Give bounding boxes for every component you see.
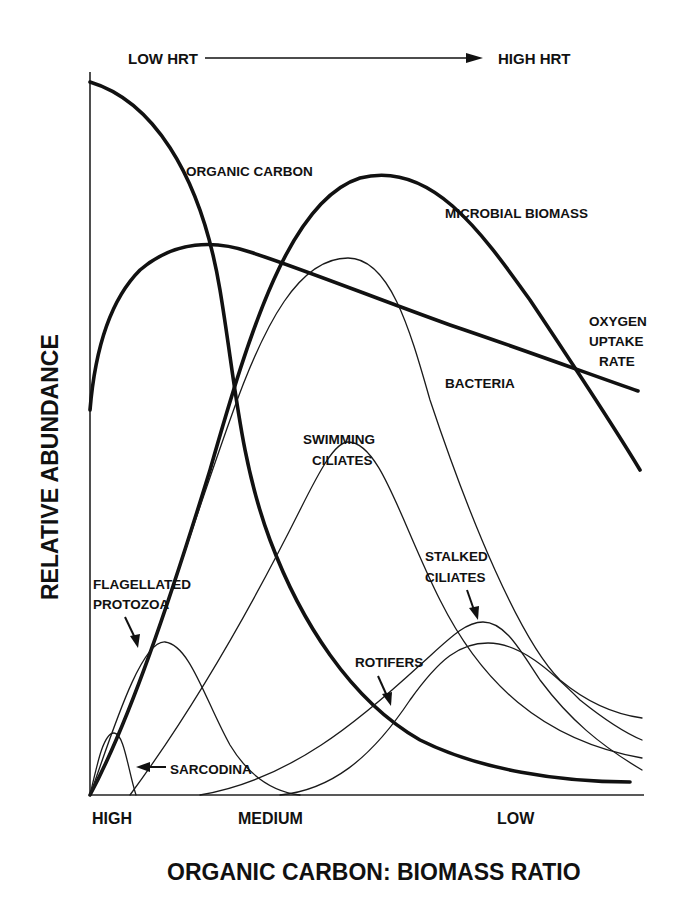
arrow-right-icon [466, 53, 483, 63]
flagellated-protozoa-label-line1: FLAGELLATED [93, 577, 191, 592]
rotifers-label: ROTIFERS [355, 655, 423, 670]
x-tick-medium: MEDIUM [238, 810, 303, 827]
organic-carbon-label: ORGANIC CARBON [186, 164, 313, 179]
stalked-ciliates-curve [200, 622, 642, 795]
stalked-ciliates-label-line1: STALKED [425, 549, 488, 564]
sarcodina-curve [90, 733, 136, 795]
microbial-biomass-label: MICROBIAL BIOMASS [445, 206, 588, 221]
oxygen-uptake-label-line3: RATE [599, 354, 635, 369]
oxygen-uptake-curve [90, 245, 638, 410]
flagellated-arrow-icon [125, 617, 140, 648]
succession-diagram: LOW HRT HIGH HRT RELATIVE ABUNDANCE HIGH… [0, 0, 679, 902]
stalked-ciliates-label-line2: CILIATES [425, 570, 486, 585]
oxygen-uptake-label-line2: UPTAKE [589, 334, 644, 349]
low-hrt-label: LOW HRT [128, 50, 198, 67]
high-hrt-label: HIGH HRT [498, 50, 571, 67]
oxygen-uptake-label-line1: OXYGEN [589, 314, 647, 329]
x-axis-label: ORGANIC CARBON: BIOMASS RATIO [167, 859, 581, 885]
stalked-arrow-icon [467, 590, 479, 620]
swimming-ciliates-label-line1: SWIMMING [303, 432, 375, 447]
rotifers-curve [280, 643, 642, 795]
sarcodina-arrow-icon [136, 762, 166, 772]
x-tick-low: LOW [497, 810, 535, 827]
swimming-ciliates-curve [130, 442, 642, 795]
sarcodina-label: SARCODINA [170, 762, 252, 777]
y-axis-label: RELATIVE ABUNDANCE [37, 334, 63, 600]
flagellated-protozoa-label-line2: PROTOZOA [93, 597, 170, 612]
x-tick-high: HIGH [92, 810, 132, 827]
swimming-ciliates-label-line2: CILIATES [312, 453, 373, 468]
bacteria-label: BACTERIA [445, 376, 515, 391]
bacteria-curve [90, 258, 642, 795]
